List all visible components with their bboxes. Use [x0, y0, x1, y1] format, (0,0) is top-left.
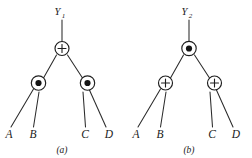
edge-root-to-right-a [68, 55, 83, 78]
root-output-label-b: Y 2 [182, 6, 193, 20]
right-node-a-dot [84, 80, 90, 86]
edge-root-to-left-b [171, 55, 184, 78]
edge-right-to-leaf-b-2 [216, 89, 233, 127]
root-output-label-a-subscript: 1 [62, 12, 66, 20]
edge-root-to-left-a [44, 55, 57, 78]
edge-root-to-right-b [195, 55, 210, 78]
panel-caption-a: (a) [56, 145, 67, 156]
panel-a: Y 1 A B C D (a) [4, 6, 113, 156]
panel-caption-b: (b) [183, 145, 194, 156]
edge-left-to-leaf-a-1 [11, 89, 34, 127]
leaf-label-a-D: D [104, 128, 114, 140]
root-output-label-a: Y 1 [55, 6, 66, 20]
right-node-b [208, 76, 222, 90]
left-node-a-dot [35, 80, 41, 86]
root-output-label-a-letter: Y [55, 6, 62, 17]
root-output-label-b-letter: Y [182, 6, 189, 17]
leaf-label-a-B: B [29, 128, 36, 140]
edge-right-to-leaf-a-2 [89, 89, 106, 127]
right-node-a [80, 76, 94, 90]
root-node-a [55, 42, 69, 56]
edge-right-to-leaf-b-1 [210, 92, 213, 127]
leaf-label-b-A: A [131, 128, 140, 140]
panel-b: Y 2 A B C D (b) [131, 6, 240, 156]
left-node-a [31, 76, 45, 90]
leaf-label-b-D: D [231, 128, 241, 140]
leaf-label-b-B: B [156, 128, 163, 140]
root-node-b [182, 41, 196, 55]
figure-container: Y 1 A B C D (a) [0, 0, 252, 158]
root-node-b-dot [186, 45, 192, 51]
edge-right-to-leaf-a-1 [83, 92, 86, 127]
leaf-label-a-A: A [4, 128, 13, 140]
leaf-label-a-C: C [81, 128, 89, 140]
edge-left-to-leaf-b-2 [161, 92, 167, 127]
edge-left-to-leaf-a-2 [34, 92, 40, 127]
root-output-label-b-subscript: 2 [189, 12, 193, 20]
leaf-label-b-C: C [208, 128, 216, 140]
left-node-b [159, 76, 173, 90]
edge-left-to-leaf-b-1 [138, 89, 161, 127]
